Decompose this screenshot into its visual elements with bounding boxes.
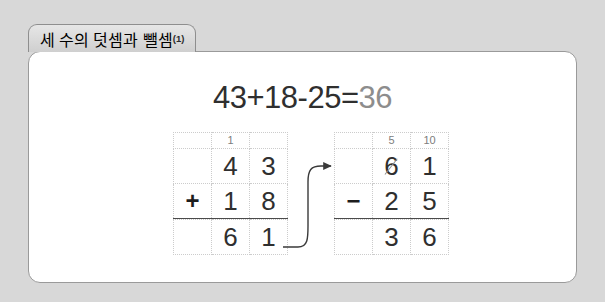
operand-row-2: + 1 8 — [174, 184, 288, 219]
operator-cell: + — [174, 184, 212, 219]
operator-cell — [174, 149, 212, 184]
digit-tens: 2 — [373, 184, 411, 219]
borrow-cell-tens: 5 — [373, 133, 411, 149]
equation-expression: 43+18-25= — [213, 80, 358, 115]
equation-line: 43+18-25=36 — [29, 80, 576, 116]
equation-result: 36 — [359, 80, 392, 115]
borrow-cell-ones: 10 — [411, 133, 449, 149]
carry-row: 1 — [174, 133, 288, 149]
addition-grid: 1 4 3 + 1 8 6 1 — [173, 132, 288, 255]
digit-tens-struck: 6 — [373, 149, 411, 184]
digit-ones: 1 — [411, 149, 449, 184]
digit-tens: 1 — [212, 184, 250, 219]
carry-cell-tens: 1 — [212, 133, 250, 149]
answer-tens: 6 — [212, 220, 250, 255]
carry-cell-op — [174, 133, 212, 149]
arrow-path — [283, 166, 331, 247]
answer-op — [174, 220, 212, 255]
operand-row-2: − 2 5 — [335, 184, 449, 219]
tab-title: 세 수의 덧셈과 뺄셈 — [40, 27, 173, 51]
tab-title-suffix: (1) — [173, 33, 185, 44]
answer-ones: 6 — [411, 220, 449, 255]
worksheet-panel: 43+18-25=36 1 4 3 + 1 8 — [28, 51, 577, 283]
worksheet-tab[interactable]: 세 수의 덧셈과 뺄셈(1) — [28, 24, 196, 52]
carry-result-arrow — [281, 146, 343, 258]
digit-ones: 5 — [411, 184, 449, 219]
answer-row: 3 6 — [335, 220, 449, 255]
struck-digit: 6 — [382, 153, 400, 179]
vertical-calculation-area: 1 4 3 + 1 8 6 1 — [29, 132, 576, 272]
digit-tens: 4 — [212, 149, 250, 184]
answer-row: 6 1 — [174, 220, 288, 255]
subtraction-grid: 5 10 6 1 − 2 5 3 6 — [334, 132, 449, 255]
operand-row-1: 6 1 — [335, 149, 449, 184]
answer-tens: 3 — [373, 220, 411, 255]
borrow-row: 5 10 — [335, 133, 449, 149]
operand-row-1: 4 3 — [174, 149, 288, 184]
